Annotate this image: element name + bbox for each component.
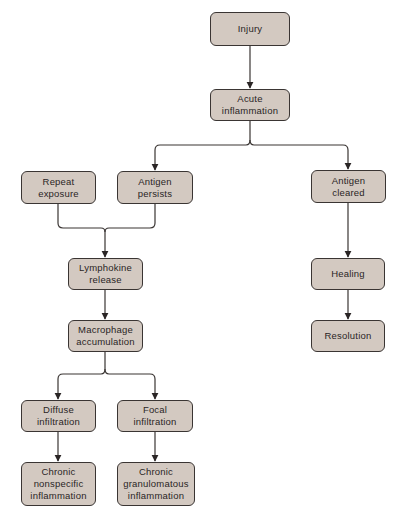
node-acute-inflammation: Acute inflammation [210,89,290,121]
node-chronic-nonspecific-inflammation: Chronic nonspecific inflammation [21,462,96,506]
node-injury: Injury [210,12,290,46]
node-lymphokine-release: Lymphokine release [68,258,143,290]
node-focal-infiltration: Focal infiltration [117,400,193,432]
node-diffuse-infiltration: Diffuse infiltration [21,400,96,432]
node-antigen-cleared: Antigen cleared [311,170,386,203]
node-macrophage-accumulation: Macrophage accumulation [68,320,143,352]
node-healing: Healing [311,258,385,290]
node-resolution: Resolution [311,320,385,352]
node-repeat-exposure: Repeat exposure [21,171,96,204]
node-antigen-persists: Antigen persists [117,171,193,204]
node-chronic-granulomatous-inflammation: Chronic granulomatous inflammation [117,462,195,506]
